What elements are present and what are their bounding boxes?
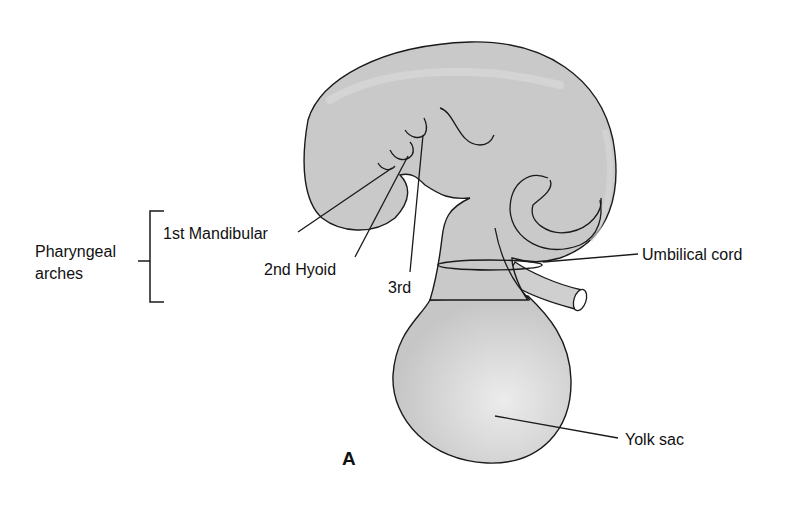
yolk-sac-label: Yolk sac: [625, 432, 684, 448]
third-arch-label: 3rd: [388, 280, 411, 296]
mandibular-label: 1st Mandibular: [163, 226, 268, 242]
yolk-sac-shape: [393, 296, 571, 463]
panel-label: A: [342, 448, 356, 470]
pharyngeal-arches-label-line1: Pharyngeal: [35, 244, 116, 260]
pharyngeal-bracket: [138, 211, 164, 302]
umbilical-cord-label: Umbilical cord: [642, 247, 742, 263]
hyoid-label: 2nd Hyoid: [264, 262, 336, 278]
pharyngeal-arches-label-line2: arches: [35, 266, 83, 282]
